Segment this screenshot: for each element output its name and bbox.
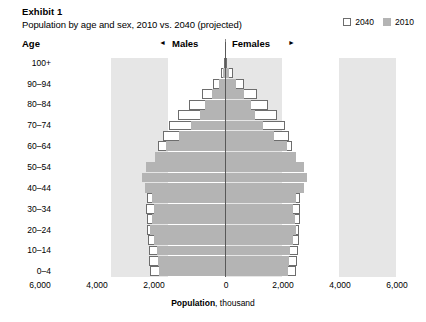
bar-2010-males bbox=[205, 100, 225, 110]
bar-2010-males bbox=[156, 152, 225, 162]
pyramid-row bbox=[55, 225, 397, 235]
y-axis-tick-80-84: 80–84 bbox=[27, 99, 51, 109]
bar-rows bbox=[55, 58, 397, 277]
females-label: Females bbox=[232, 38, 270, 49]
bar-2010-females bbox=[225, 121, 263, 131]
bar-2010-females bbox=[225, 256, 289, 266]
pyramid-row bbox=[55, 141, 397, 151]
y-axis-tick-70-74: 70–74 bbox=[27, 120, 51, 130]
pyramid-row bbox=[55, 173, 397, 183]
pyramid-plot-area bbox=[55, 58, 397, 277]
y-axis-tick-10-14: 10–14 bbox=[27, 245, 51, 255]
bar-2010-females bbox=[225, 246, 290, 256]
pyramid-row bbox=[55, 193, 397, 203]
bar-2010-males bbox=[191, 121, 225, 131]
pyramid-row bbox=[55, 246, 397, 256]
y-axis-tick-20-24: 20–24 bbox=[27, 225, 51, 235]
bar-2010-males bbox=[166, 141, 225, 151]
x-axis-tick: 4,000 bbox=[86, 280, 107, 290]
y-axis-tick-90-94: 90–94 bbox=[27, 79, 51, 89]
y-axis-tick-30-34: 30–34 bbox=[27, 204, 51, 214]
pyramid-row bbox=[55, 266, 397, 276]
bar-2010-females bbox=[225, 131, 274, 141]
y-axis-tick-40-44: 40–44 bbox=[27, 183, 51, 193]
exhibit-figure: Exhibit 1 Population by age and sex, 201… bbox=[0, 0, 426, 322]
y-axis-tick-0-4: 0–4 bbox=[37, 266, 51, 276]
chart-legend: 2040 2010 bbox=[343, 17, 414, 27]
pyramid-row bbox=[55, 214, 397, 224]
bar-2010-females bbox=[225, 152, 293, 162]
males-label: Males bbox=[172, 38, 198, 49]
bar-2010-males bbox=[158, 256, 225, 266]
bar-2010-females bbox=[225, 89, 244, 99]
pyramid-row bbox=[55, 131, 397, 141]
bar-2010-females bbox=[225, 183, 299, 193]
bar-2010-males bbox=[151, 173, 225, 183]
bar-2010-males bbox=[150, 225, 225, 235]
legend-item-2040[interactable]: 2040 bbox=[343, 17, 374, 27]
chart-subtitle: Population by age and sex, 2010 vs. 2040… bbox=[22, 19, 242, 30]
pyramid-row bbox=[55, 162, 397, 172]
x-axis-tick: 6,000 bbox=[386, 280, 407, 290]
sex-header: ◄ Males Females ► bbox=[0, 38, 426, 52]
x-axis-tick: 2,000 bbox=[272, 280, 293, 290]
bar-2010-females bbox=[225, 79, 236, 89]
bar-2010-males bbox=[152, 193, 225, 203]
pyramid-row bbox=[55, 152, 397, 162]
bar-2010-males bbox=[154, 235, 225, 245]
bar-2010-females bbox=[225, 173, 297, 183]
x-axis-tick: 4,000 bbox=[329, 280, 350, 290]
legend-label-2010: 2010 bbox=[395, 17, 414, 27]
bar-2010-males bbox=[157, 246, 225, 256]
y-axis-tick-labels: 0–410–1420–2430–3440–4450–5460–6470–7480… bbox=[0, 58, 51, 277]
bar-2010-females bbox=[225, 162, 295, 172]
center-axis-line bbox=[225, 42, 226, 277]
bar-2010-females bbox=[225, 193, 296, 203]
x-axis-tick: 0 bbox=[224, 280, 229, 290]
pyramid-row bbox=[55, 183, 397, 193]
bar-2010-males bbox=[149, 183, 225, 193]
bar-2010-females bbox=[225, 100, 251, 110]
exhibit-label: Exhibit 1 bbox=[22, 6, 63, 17]
x-axis-tick: 6,000 bbox=[29, 280, 50, 290]
x-axis-tick-labels: 6,0004,0002,00002,0004,0006,000 bbox=[0, 280, 426, 293]
legend-label-2040: 2040 bbox=[355, 17, 374, 27]
y-axis-tick-60-64: 60–64 bbox=[27, 141, 51, 151]
x-axis-title-rest: , thousand bbox=[215, 298, 255, 308]
x-axis-tick: 2,000 bbox=[143, 280, 164, 290]
bar-2010-males bbox=[152, 214, 225, 224]
bar-2010-males bbox=[154, 162, 225, 172]
pyramid-row bbox=[55, 89, 397, 99]
pyramid-row bbox=[55, 100, 397, 110]
x-axis-title-bold: Population bbox=[171, 298, 215, 308]
pyramid-row bbox=[55, 235, 397, 245]
bar-2010-females bbox=[225, 235, 293, 245]
pyramid-row bbox=[55, 204, 397, 214]
pyramid-row bbox=[55, 256, 397, 266]
pyramid-row bbox=[55, 79, 397, 89]
y-axis-tick-50-54: 50–54 bbox=[27, 162, 51, 172]
legend-item-2010[interactable]: 2010 bbox=[383, 17, 414, 27]
bar-2010-males bbox=[154, 204, 225, 214]
pyramid-row bbox=[55, 58, 397, 68]
pyramid-row bbox=[55, 68, 397, 78]
bar-2010-females bbox=[225, 110, 255, 120]
bar-2010-females bbox=[225, 266, 288, 276]
pyramid-row bbox=[55, 121, 397, 131]
x-axis-title: Population, thousand bbox=[0, 298, 426, 308]
pyramid-row bbox=[55, 110, 397, 120]
legend-swatch-2040 bbox=[343, 18, 351, 26]
bar-2010-females bbox=[225, 141, 287, 151]
bar-2010-males bbox=[200, 110, 225, 120]
y-axis-tick-100+: 100+ bbox=[32, 58, 51, 68]
bar-2010-females bbox=[225, 214, 295, 224]
bar-2010-females bbox=[225, 225, 296, 235]
bar-2010-males bbox=[212, 89, 225, 99]
legend-swatch-2010 bbox=[383, 18, 391, 26]
left-arrow-icon: ◄ bbox=[159, 39, 166, 46]
bar-2010-females bbox=[225, 204, 293, 214]
bar-2010-males bbox=[159, 266, 225, 276]
right-arrow-icon: ► bbox=[288, 39, 295, 46]
bar-2010-males bbox=[179, 131, 225, 141]
